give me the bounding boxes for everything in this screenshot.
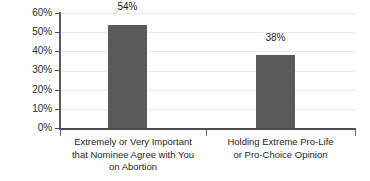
- plot-area: 54% 38%: [60, 13, 356, 128]
- category-label-line: Holding Extreme Pro-Life: [206, 136, 355, 149]
- category-label-line: that Nominee Agree with You: [60, 149, 206, 162]
- y-tick-50: 50%: [0, 27, 52, 37]
- y-tick-10: 10%: [0, 104, 52, 114]
- x-axis-line: [59, 128, 356, 130]
- gridline-30: [60, 71, 356, 72]
- gridline-40: [60, 51, 356, 52]
- y-tick-20: 20%: [0, 85, 52, 95]
- gridline-50: [60, 32, 356, 33]
- y-axis-line: [59, 12, 61, 129]
- y-axis-tick-labels: 60% 50% 40% 30% 20% 10% 0%: [0, 0, 52, 130]
- y-tick-0: 0%: [0, 123, 52, 133]
- y-tick-30: 30%: [0, 65, 52, 75]
- category-label-line: or Pro-Choice Opinion: [206, 149, 355, 162]
- bar-value-label-1: 54%: [108, 1, 147, 12]
- category-label-abortion-importance: Extremely or Very Important that Nominee…: [60, 136, 206, 174]
- y-tick-40: 40%: [0, 46, 52, 56]
- category-label-line: on Abortion: [60, 161, 206, 174]
- gridline-10: [60, 109, 356, 110]
- y-tick-60: 60%: [0, 8, 52, 18]
- category-label-extreme-opinion: Holding Extreme Pro-Life or Pro-Choice O…: [206, 136, 355, 161]
- bar-extreme-opinion[interactable]: [256, 55, 295, 128]
- bar-chart: 60% 50% 40% 30% 20% 10% 0% 54% 38% Extre…: [0, 0, 370, 181]
- gridline-60: [60, 13, 356, 14]
- x-tickmark-right: [355, 130, 356, 136]
- bar-value-label-2: 38%: [256, 32, 295, 43]
- category-label-line: Extremely or Very Important: [60, 136, 206, 149]
- bar-abortion-importance[interactable]: [108, 25, 147, 129]
- gridline-20: [60, 90, 356, 91]
